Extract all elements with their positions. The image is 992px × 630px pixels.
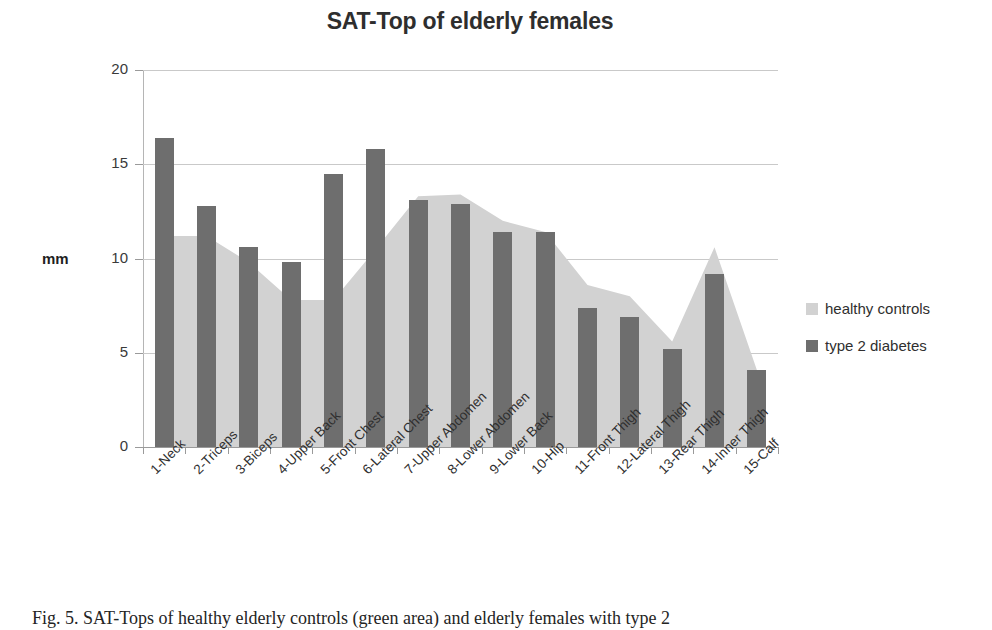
bar-series-type-2-diabetes bbox=[143, 70, 778, 447]
y-tick-mark bbox=[135, 164, 143, 165]
y-tick-mark bbox=[135, 259, 143, 260]
legend-label-healthy-controls: healthy controls bbox=[825, 300, 930, 317]
bar bbox=[578, 308, 597, 447]
figure-container: SAT-Top of elderly females mm 05101520 1… bbox=[0, 0, 992, 630]
y-tick-mark bbox=[135, 353, 143, 354]
bar bbox=[366, 149, 385, 447]
chart-legend: healthy controls type 2 diabetes bbox=[806, 300, 930, 374]
y-axis-title: mm bbox=[42, 250, 69, 267]
figure-caption: Fig. 5. SAT-Tops of healthy elderly cont… bbox=[32, 608, 972, 629]
legend-swatch-healthy-controls bbox=[806, 303, 818, 315]
bar bbox=[282, 262, 301, 447]
legend-item-healthy-controls: healthy controls bbox=[806, 300, 930, 317]
legend-label-type-2-diabetes: type 2 diabetes bbox=[825, 337, 927, 354]
y-tick-label: 5 bbox=[92, 343, 128, 360]
chart-title: SAT-Top of elderly females bbox=[0, 8, 940, 35]
bar bbox=[239, 247, 258, 447]
y-tick-label: 15 bbox=[92, 154, 128, 171]
legend-swatch-type-2-diabetes bbox=[806, 340, 818, 352]
bar bbox=[197, 206, 216, 447]
bar bbox=[155, 138, 174, 447]
y-tick-label: 20 bbox=[92, 60, 128, 77]
bar bbox=[324, 174, 343, 447]
x-tick-mark bbox=[143, 448, 144, 454]
y-tick-label: 10 bbox=[92, 249, 128, 266]
y-tick-mark bbox=[135, 447, 143, 448]
y-tick-label: 0 bbox=[92, 437, 128, 454]
y-tick-mark bbox=[135, 70, 143, 71]
legend-item-type-2-diabetes: type 2 diabetes bbox=[806, 337, 930, 354]
